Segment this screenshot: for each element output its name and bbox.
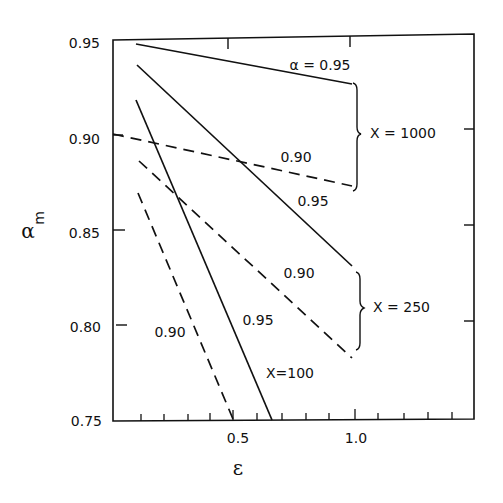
annotation-095-X250: 0.95 <box>297 193 328 209</box>
x-axis-label: ε <box>233 456 243 480</box>
annotation-alpha095-X1000: α = 0.95 <box>289 57 350 73</box>
line-alpha095-X250 <box>137 65 352 266</box>
y-axis-label: α m <box>21 211 47 243</box>
y-axis-ticks-right <box>464 129 474 321</box>
annotation-090-X1000: 0.90 <box>280 149 311 165</box>
line-alpha090-X100 <box>138 193 233 419</box>
y-axis-ticks-left <box>113 135 127 325</box>
annotation-X100: X=100 <box>266 365 314 381</box>
annotation-090-X250: 0.90 <box>283 265 314 281</box>
y-tick-label: 0.90 <box>69 131 100 147</box>
annotation-090-X100: 0.90 <box>154 324 185 340</box>
annotation-X250: X = 250 <box>373 299 430 315</box>
chart: 0.95 0.90 0.85 0.80 0.75 0.5 1.0 ε α m α… <box>0 0 503 503</box>
brace-X1000 <box>353 83 361 191</box>
y-tick-label: 0.85 <box>69 225 100 241</box>
line-alpha090-X1000 <box>113 134 352 186</box>
annotation-095-X100: 0.95 <box>242 312 273 328</box>
y-axis-label-subscript: m <box>31 211 47 225</box>
y-tick-label: 0.80 <box>70 319 101 335</box>
y-tick-label: 0.75 <box>71 413 102 429</box>
y-tick-label: 0.95 <box>69 35 100 51</box>
x-tick-label: 0.5 <box>227 430 249 446</box>
x-tick-label: 1.0 <box>345 430 367 446</box>
line-alpha095-X100 <box>136 100 272 420</box>
data-lines <box>113 44 352 420</box>
annotation-X1000: X = 1000 <box>370 125 436 141</box>
brace-X250 <box>356 272 364 350</box>
